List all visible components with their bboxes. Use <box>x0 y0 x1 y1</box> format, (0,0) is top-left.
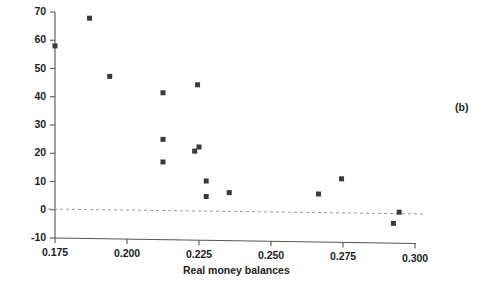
data-point <box>227 190 232 195</box>
x-tick-label: 0.175 <box>25 246 85 258</box>
data-point-group <box>53 16 402 226</box>
y-tick-label: 60 <box>0 33 46 45</box>
x-tick-label: 0.275 <box>313 250 373 262</box>
data-point <box>339 176 344 181</box>
x-tick-label: 0.300 <box>385 252 445 264</box>
data-point <box>195 82 200 87</box>
y-tick-label: 50 <box>0 62 46 74</box>
panel-label: (b) <box>455 101 468 113</box>
plot-canvas <box>0 0 484 281</box>
data-point <box>316 192 321 197</box>
x-axis-title: Real money balances <box>183 264 290 276</box>
y-tick-label: 30 <box>0 118 46 130</box>
zero-reference-line <box>48 209 425 214</box>
data-point <box>192 149 197 154</box>
y-tick-label: 40 <box>0 90 46 102</box>
y-tick-label: -10 <box>0 231 46 243</box>
x-tick-label: 0.250 <box>241 249 301 261</box>
data-point <box>161 90 166 95</box>
y-tick-label: 10 <box>0 175 46 187</box>
data-point <box>391 221 396 226</box>
data-point <box>87 16 92 21</box>
x-tick-label: 0.225 <box>169 248 229 260</box>
y-tick-label: 0 <box>0 203 46 215</box>
y-tick-label: 20 <box>0 146 46 158</box>
data-point <box>197 144 202 149</box>
data-point <box>397 210 402 215</box>
y-tick-label: 70 <box>0 5 46 17</box>
data-point <box>161 137 166 142</box>
scatter-plot-figure: -10010203040506070 0.1750.2000.2250.2500… <box>0 0 484 281</box>
x-axis-line <box>55 238 416 244</box>
data-point <box>161 159 166 164</box>
data-point <box>53 43 58 48</box>
data-point <box>204 178 209 183</box>
x-tick-label: 0.200 <box>97 247 157 259</box>
data-point <box>107 74 112 79</box>
data-point <box>204 194 209 199</box>
